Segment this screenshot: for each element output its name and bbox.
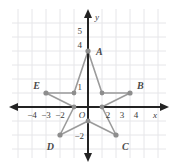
x-tick-label-3: 3 bbox=[120, 110, 125, 120]
x-tick-label-4: 4 bbox=[134, 110, 139, 120]
point-A bbox=[85, 48, 90, 53]
y-tick-label-5: 5 bbox=[78, 26, 83, 36]
vertex-label-E: E bbox=[32, 80, 40, 91]
point-D bbox=[57, 132, 62, 137]
inner-point-3 bbox=[86, 119, 91, 124]
vertex-label-B: B bbox=[136, 80, 144, 91]
origin-label: O bbox=[79, 110, 86, 120]
inner-point-4 bbox=[72, 105, 77, 110]
y-tick-label--2: −2 bbox=[74, 131, 84, 141]
coordinate-plane-figure: −4 −3 −2 2 3 4 5 4 1 −2 y x O A B C D E bbox=[0, 0, 179, 167]
x-axis-name: x bbox=[152, 110, 157, 120]
point-C bbox=[113, 132, 118, 137]
x-tick-label-2: 2 bbox=[106, 110, 111, 120]
x-tick-label--2: −2 bbox=[55, 110, 65, 120]
y-axis-name: y bbox=[94, 12, 99, 22]
inner-point-5 bbox=[72, 91, 77, 96]
point-E bbox=[43, 90, 48, 95]
y-tick-label-1: 1 bbox=[78, 82, 83, 92]
x-tick-label--3: −3 bbox=[41, 110, 51, 120]
inner-point-2 bbox=[100, 105, 105, 110]
star-plot-svg: −4 −3 −2 2 3 4 5 4 1 −2 y x O A B C D E bbox=[0, 0, 179, 167]
x-tick-label--4: −4 bbox=[27, 110, 37, 120]
vertex-label-C: C bbox=[122, 141, 129, 152]
inner-point-1 bbox=[100, 91, 105, 96]
figure-background bbox=[0, 0, 179, 167]
point-B bbox=[127, 90, 132, 95]
y-tick-label-4: 4 bbox=[78, 40, 83, 50]
vertex-label-D: D bbox=[46, 141, 54, 152]
vertex-label-A: A bbox=[95, 46, 103, 57]
